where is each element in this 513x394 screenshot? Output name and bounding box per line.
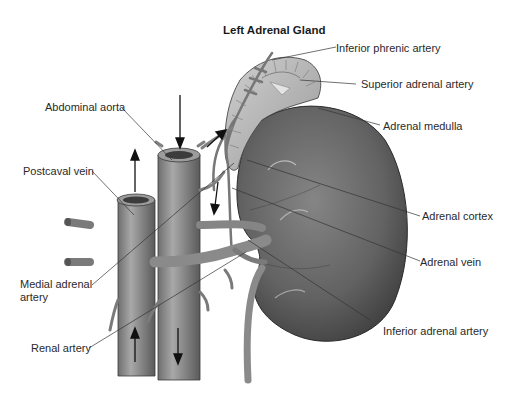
label-medial-adrenal-artery-line1: Medial adrenal: [20, 278, 92, 291]
label-inferior-phrenic-artery: Inferior phrenic artery: [336, 42, 441, 55]
label-medial-adrenal-artery-line2: artery: [20, 291, 92, 304]
leader-inferior-phrenic: [272, 47, 336, 60]
label-adrenal-cortex: Adrenal cortex: [422, 210, 493, 223]
arrow-down-icon: [176, 95, 184, 148]
kidney: [237, 106, 407, 341]
arrow-up-icon: [131, 150, 139, 192]
leader-postcaval: [92, 171, 134, 215]
diagram-title: Left Adrenal Gland: [223, 24, 325, 36]
label-abdominal-aorta: Abdominal aorta: [45, 101, 125, 114]
label-renal-artery: Renal artery: [31, 342, 91, 355]
label-postcaval-vein: Postcaval vein: [23, 165, 94, 178]
label-adrenal-medulla: Adrenal medulla: [383, 120, 463, 133]
leader-abdominal-aorta: [122, 108, 172, 160]
label-adrenal-vein: Adrenal vein: [420, 256, 481, 269]
label-superior-adrenal-artery: Superior adrenal artery: [361, 78, 474, 91]
arrow-down-icon: [211, 182, 219, 214]
label-medial-adrenal-artery: Medial adrenal artery: [20, 278, 92, 304]
label-inferior-adrenal-artery: Inferior adrenal artery: [383, 325, 488, 338]
